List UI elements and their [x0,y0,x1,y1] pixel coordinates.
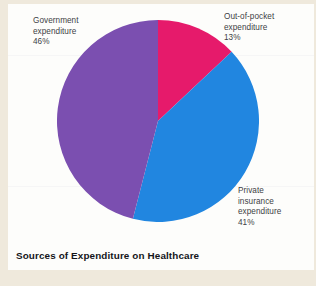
pie-label-private-insurance-expenditure: Private insurance expenditure 41% [238,186,312,228]
chart-figure: Government expenditure 46% Out-of-pocket… [0,0,316,286]
pie-svg [57,20,259,222]
pie-label-out-of-pocket-expenditure: Out-of-pocket expenditure 13% [224,12,310,44]
pie-label-government-expenditure: Government expenditure 46% [33,16,119,48]
chart-title: Sources of Expenditure on Healthcare [16,250,199,261]
pie-chart [57,20,259,222]
